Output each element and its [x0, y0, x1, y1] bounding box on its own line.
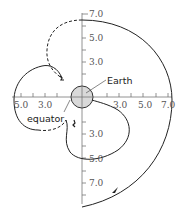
- earth-label: Earth: [107, 75, 132, 86]
- arrowhead-icon: [112, 187, 118, 193]
- orbit-diagram: Earth equator 7.0 5.0 3.0 3.0 5.0 7.0 5.…: [0, 0, 181, 215]
- upper-squiggle: [60, 76, 64, 80]
- orbit-diagram-svg: Earth equator 7.0 5.0 3.0 3.0 5.0 7.0 5.…: [0, 0, 181, 215]
- earth-leader: [86, 80, 106, 93]
- equator-leader: [64, 100, 70, 112]
- v-label-bottom-3: 3.0: [89, 129, 104, 139]
- h-label-right-7: 7.0: [161, 100, 176, 110]
- v-label-bottom-5: 5.0: [89, 154, 104, 164]
- v-label-top-3: 3.0: [89, 57, 104, 67]
- h-label-left-5: 5.0: [14, 100, 29, 110]
- h-label-right-3: 3.0: [113, 100, 128, 110]
- v-label-top-7: 7.0: [89, 9, 104, 19]
- lower-squiggle: [73, 120, 75, 127]
- h-label-right-5: 5.0: [138, 100, 153, 110]
- v-label-bottom-7: 7.0: [89, 178, 104, 188]
- vertical-axis: [82, 13, 88, 204]
- v-label-top-5: 5.0: [89, 33, 104, 43]
- h-label-left-3: 3.0: [38, 100, 53, 110]
- upper-dashed-trajectory: [47, 20, 82, 78]
- equator-label: equator: [27, 113, 64, 124]
